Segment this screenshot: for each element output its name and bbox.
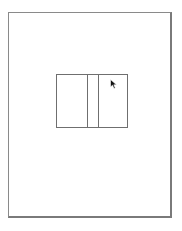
arrow-pointer-icon — [110, 79, 118, 89]
mouse-cursor-icon — [110, 75, 118, 85]
figure-panel-left[interactable] — [57, 75, 88, 127]
figure-panel-middle[interactable] — [88, 75, 99, 127]
